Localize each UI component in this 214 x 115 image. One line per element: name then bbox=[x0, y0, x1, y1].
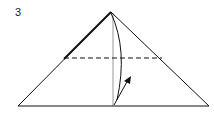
origami-diagram bbox=[0, 0, 214, 115]
fold-arrow-shaft bbox=[114, 80, 128, 105]
fold-arrow-head-icon bbox=[124, 76, 131, 84]
layered-left-edge bbox=[64, 12, 111, 59]
